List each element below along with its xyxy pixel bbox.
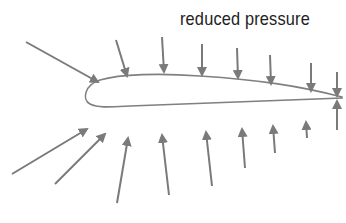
top-pressure-arrow-icon <box>162 37 164 72</box>
top-pressure-arrows <box>26 37 337 96</box>
bottom-pressure-arrow-icon <box>206 132 212 186</box>
reduced-pressure-label: reduced pressure <box>180 8 310 30</box>
top-pressure-arrow-icon <box>116 40 127 76</box>
airfoil-pressure-diagram: reduced pressure <box>0 0 346 223</box>
bottom-pressure-arrow-icon <box>117 138 128 203</box>
bottom-pressure-arrow-icon <box>242 129 245 168</box>
top-pressure-arrow-icon <box>26 42 98 82</box>
top-pressure-arrow-icon <box>237 48 238 78</box>
bottom-pressure-arrow-icon <box>273 126 275 153</box>
bottom-pressure-arrow-icon <box>12 129 87 174</box>
diagram-canvas <box>0 0 346 223</box>
bottom-pressure-arrow-icon <box>55 134 105 184</box>
bottom-pressure-arrow-icon <box>162 135 169 195</box>
bottom-pressure-arrows <box>12 101 337 203</box>
bottom-pressure-arrow-icon <box>306 122 307 138</box>
top-pressure-arrow-icon <box>270 55 271 84</box>
airfoil-outline <box>85 74 342 107</box>
